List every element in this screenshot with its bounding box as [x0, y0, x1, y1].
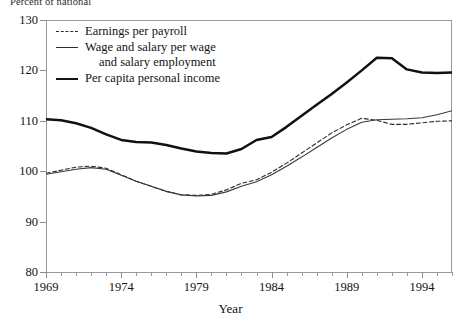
x-tick-mark-major [272, 272, 273, 278]
y-tick-label: 80 [8, 266, 38, 279]
x-tick-mark-minor [302, 272, 303, 276]
x-tick-mark-minor [76, 272, 77, 276]
x-tick-mark-minor [91, 272, 92, 276]
legend-item-wage-and-salary: Wage and salary per wage [56, 40, 306, 56]
x-tick-mark-minor [332, 272, 333, 276]
legend-swatch-thin-icon [56, 47, 78, 48]
x-tick-mark-minor [392, 272, 393, 276]
legend-label: Wage and salary per wage [85, 40, 216, 56]
y-tick-label: 120 [8, 64, 38, 77]
x-tick-mark-minor [106, 272, 107, 276]
chart-figure: Percent of national 1301201101009080 196… [0, 0, 461, 326]
legend-swatch-dashed-icon [56, 31, 78, 32]
chart-supertitle: Percent of national [10, 0, 91, 7]
x-tick-label: 1989 [325, 281, 369, 294]
y-tick-label: 130 [8, 14, 38, 27]
legend-label: Per capita personal income [85, 71, 220, 87]
x-tick-label: 1994 [400, 281, 444, 294]
x-tick-mark-minor [226, 272, 227, 276]
x-tick-mark-minor [257, 272, 258, 276]
x-tick-mark-minor [407, 272, 408, 276]
x-tick-label: 1979 [174, 281, 218, 294]
x-axis-title: Year [0, 301, 461, 317]
x-tick-mark-minor [362, 272, 363, 276]
x-tick-mark-minor [437, 272, 438, 276]
x-tick-mark-minor [377, 272, 378, 276]
legend-label-continuation: and salary employment [99, 55, 216, 71]
x-tick-label: 1984 [250, 281, 294, 294]
y-tick-label: 100 [8, 165, 38, 178]
x-tick-mark-minor [317, 272, 318, 276]
x-tick-mark-minor [61, 272, 62, 276]
x-tick-mark-major [46, 272, 47, 278]
x-tick-label: 1969 [24, 281, 68, 294]
x-tick-mark-major [196, 272, 197, 278]
x-tick-mark-minor [151, 272, 152, 276]
legend-label: Earnings per payroll [85, 24, 187, 40]
x-tick-mark-minor [241, 272, 242, 276]
x-tick-mark-major [347, 272, 348, 278]
y-tick-label: 90 [8, 216, 38, 229]
y-tick-label: 110 [8, 115, 38, 128]
legend-swatch-thick-icon [56, 78, 78, 80]
chart-legend: Earnings per payroll Wage and salary per… [56, 24, 306, 86]
x-tick-mark-minor [452, 272, 453, 276]
x-tick-mark-major [422, 272, 423, 278]
x-tick-mark-minor [287, 272, 288, 276]
x-tick-label: 1974 [99, 281, 143, 294]
legend-item-wage-and-salary-line2: and salary employment [56, 55, 306, 71]
series-line [46, 111, 452, 196]
x-tick-mark-minor [166, 272, 167, 276]
x-tick-mark-major [121, 272, 122, 278]
legend-item-per-capita-personal-income: Per capita personal income [56, 71, 306, 87]
legend-item-earnings-per-payroll: Earnings per payroll [56, 24, 306, 40]
x-tick-mark-minor [136, 272, 137, 276]
x-tick-mark-minor [181, 272, 182, 276]
x-tick-mark-minor [211, 272, 212, 276]
